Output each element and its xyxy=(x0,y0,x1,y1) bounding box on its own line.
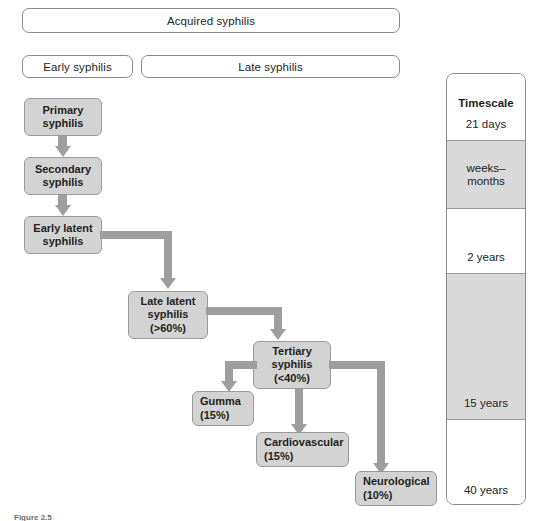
secondary-syphilis-line2: syphilis xyxy=(43,176,84,190)
timescale-title: Timescale xyxy=(458,97,513,109)
connector-latelatent-to-tertiary-horizontal xyxy=(206,307,282,315)
gumma-line1: Gumma xyxy=(200,395,241,409)
late-syphilis-box: Late syphilis xyxy=(141,55,400,78)
tertiary-syphilis-line3: (<40%) xyxy=(274,372,310,386)
timescale-band-2-years: 2 years xyxy=(447,209,525,274)
connector-latelatent-to-tertiary-arrowhead xyxy=(270,329,286,340)
primary-syphilis-line1: Primary xyxy=(43,104,84,118)
early-syphilis-label: Early syphilis xyxy=(43,61,112,73)
timescale-label-2: 2 years xyxy=(467,251,505,264)
timescale-band-weeks-months: weeks– months xyxy=(447,141,525,209)
connector-latelatent-to-tertiary-vertical xyxy=(274,307,282,331)
timescale-band-40-years: 40 years xyxy=(447,420,525,505)
connector-tertiary-to-gumma-vertical xyxy=(225,361,233,383)
acquired-syphilis-box: Acquired syphilis xyxy=(22,8,400,33)
figure-caption: Figure 2.5 xyxy=(14,513,52,521)
timescale-label-0: 21 days xyxy=(466,118,506,131)
tertiary-syphilis-line2: syphilis xyxy=(272,358,313,372)
secondary-syphilis-box: Secondary syphilis xyxy=(24,157,102,195)
neurological-line2: (10%) xyxy=(363,489,392,503)
late-latent-syphilis-box: Late latent syphilis (>60%) xyxy=(128,291,208,339)
connector-earlylatent-to-latelatent-vertical xyxy=(164,231,172,280)
connector-secondary-to-earlylatent-arrowhead xyxy=(55,205,71,216)
primary-syphilis-box: Primary syphilis xyxy=(24,98,102,136)
timescale-label-1: weeks– months xyxy=(467,162,506,188)
neurological-box: Neurological (10%) xyxy=(355,471,437,506)
secondary-syphilis-line1: Secondary xyxy=(35,163,91,177)
connector-earlylatent-to-latelatent-arrowhead xyxy=(160,278,176,289)
cardiovascular-box: Cardiovascular (15%) xyxy=(256,432,349,467)
gumma-box: Gumma (15%) xyxy=(192,391,254,426)
late-latent-syphilis-line3: (>60%) xyxy=(150,322,186,336)
tertiary-syphilis-box: Tertiary syphilis (<40%) xyxy=(253,341,331,389)
timescale-column: Timescale 21 days weeks– months 2 years … xyxy=(446,73,526,505)
gumma-line2: (15%) xyxy=(200,409,229,423)
connector-primary-to-secondary-arrowhead xyxy=(55,146,71,157)
late-latent-syphilis-line1: Late latent xyxy=(140,295,195,309)
late-syphilis-label: Late syphilis xyxy=(238,61,303,73)
timescale-band-15-years: 15 years xyxy=(447,274,525,420)
early-latent-syphilis-line1: Early latent xyxy=(33,222,92,236)
acquired-syphilis-label: Acquired syphilis xyxy=(167,15,255,27)
syphilis-progression-diagram: Acquired syphilis Early syphilis Late sy… xyxy=(0,0,543,521)
early-latent-syphilis-line2: syphilis xyxy=(43,235,84,249)
connector-earlylatent-to-latelatent-horizontal xyxy=(100,231,172,239)
timescale-label-3: 15 years xyxy=(464,397,508,410)
primary-syphilis-line2: syphilis xyxy=(43,117,84,131)
cardiovascular-line1: Cardiovascular xyxy=(264,436,343,450)
neurological-line1: Neurological xyxy=(363,475,430,489)
connector-tertiary-to-neurological-vertical xyxy=(377,361,385,465)
timescale-band-21-days: Timescale 21 days xyxy=(447,74,525,141)
early-latent-syphilis-box: Early latent syphilis xyxy=(24,216,102,254)
cardiovascular-line2: (15%) xyxy=(264,450,293,464)
connector-tertiary-to-cardiovascular-stem xyxy=(295,389,303,426)
early-syphilis-box: Early syphilis xyxy=(22,55,133,78)
late-latent-syphilis-line2: syphilis xyxy=(148,308,189,322)
tertiary-syphilis-line1: Tertiary xyxy=(272,345,312,359)
timescale-label-4: 40 years xyxy=(464,484,508,497)
